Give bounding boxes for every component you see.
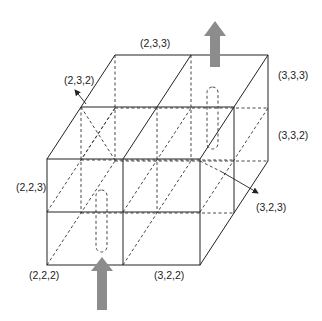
pointer-arrow-232	[75, 90, 86, 104]
hidden-edges	[47, 55, 268, 265]
label-3-3-3: (3,3,3)	[278, 69, 308, 81]
label-2-2-2: (2,2,2)	[29, 269, 59, 281]
pointer-arrow-323	[222, 172, 258, 193]
label-3-2-2: (3,2,2)	[154, 269, 184, 281]
label-2-3-2: (2,3,2)	[64, 74, 94, 86]
label-2-3-3: (2,3,3)	[140, 37, 170, 49]
cell-grid-diagram: (2,3,3) (2,3,2) (3,3,3) (3,3,2) (2,2,3) …	[0, 0, 322, 321]
label-3-2-3: (3,2,3)	[256, 201, 286, 213]
pipe-inlet-capsule	[96, 190, 107, 252]
outflow-arrow	[204, 21, 226, 67]
label-3-3-2: (3,3,2)	[278, 129, 308, 141]
label-2-2-3: (2,2,3)	[16, 181, 46, 193]
